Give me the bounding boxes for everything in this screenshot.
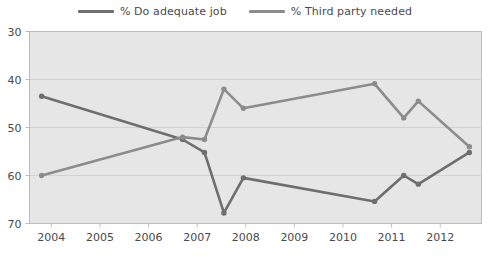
y-axis: 7060504030 — [8, 26, 30, 231]
data-point[interactable] — [372, 81, 377, 86]
x-tick-label-2008: 2008 — [232, 231, 260, 244]
y-tick-label-60: 60 — [8, 170, 22, 183]
data-point[interactable] — [202, 150, 207, 155]
data-point[interactable] — [401, 173, 406, 178]
x-tick-label-2006: 2006 — [135, 231, 163, 244]
data-point[interactable] — [221, 86, 226, 91]
x-tick-label-2011: 2011 — [378, 231, 406, 244]
x-axis: 200420052006200720082009201020112012 — [37, 224, 454, 244]
x-tick-label-2005: 2005 — [86, 231, 114, 244]
data-point[interactable] — [241, 175, 246, 180]
data-point[interactable] — [467, 144, 472, 149]
data-point[interactable] — [39, 94, 44, 99]
data-point[interactable] — [416, 98, 421, 103]
line-chart: % Do adequate job % Third party needed 7… — [0, 0, 490, 263]
x-tick-label-2009: 2009 — [280, 231, 308, 244]
data-point[interactable] — [401, 115, 406, 120]
data-point[interactable] — [416, 181, 421, 186]
data-point[interactable] — [221, 210, 226, 215]
data-point[interactable] — [180, 134, 185, 139]
x-tick-label-2004: 2004 — [37, 231, 65, 244]
data-point[interactable] — [39, 173, 44, 178]
data-point[interactable] — [372, 199, 377, 204]
data-point[interactable] — [202, 137, 207, 142]
y-tick-label-70: 70 — [8, 218, 22, 231]
y-tick-label-40: 40 — [8, 74, 22, 87]
y-tick-label-30: 30 — [8, 26, 22, 39]
x-tick-label-2012: 2012 — [426, 231, 454, 244]
data-point[interactable] — [241, 106, 246, 111]
x-tick-label-2007: 2007 — [183, 231, 211, 244]
y-tick-label-50: 50 — [8, 122, 22, 135]
plot-area: 7060504030 20042005200620072008200920102… — [0, 0, 490, 263]
x-tick-label-2010: 2010 — [329, 231, 357, 244]
data-point[interactable] — [467, 150, 472, 155]
